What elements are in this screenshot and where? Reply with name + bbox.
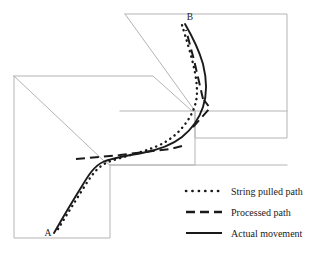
diagram-canvas: A B String pulled path Processed path Ac… [0, 0, 321, 255]
legend-label-processed: Processed path [231, 207, 291, 218]
legend-item-processed: Processed path [186, 207, 291, 218]
processed-path [76, 146, 182, 159]
legend-item-actual: Actual movement [186, 228, 303, 239]
paths-group [54, 24, 210, 233]
string-pulled-path [58, 25, 197, 229]
legend-label-string-pulled: String pulled path [231, 186, 303, 197]
node-label-b: B [187, 12, 193, 22]
path-comparison-figure: A B String pulled path Processed path Ac… [0, 0, 321, 255]
room-geometry-group [14, 14, 287, 238]
node-label-a: A [45, 228, 52, 238]
actual-movement-path [54, 24, 206, 233]
lower-room-diagonal [14, 76, 104, 161]
lower-room-outline [14, 76, 195, 111]
legend-label-actual: Actual movement [231, 228, 303, 239]
upper-room-diagonal [125, 14, 195, 111]
legend: String pulled path Processed path Actual… [186, 186, 303, 239]
legend-item-string-pulled: String pulled path [186, 186, 303, 197]
